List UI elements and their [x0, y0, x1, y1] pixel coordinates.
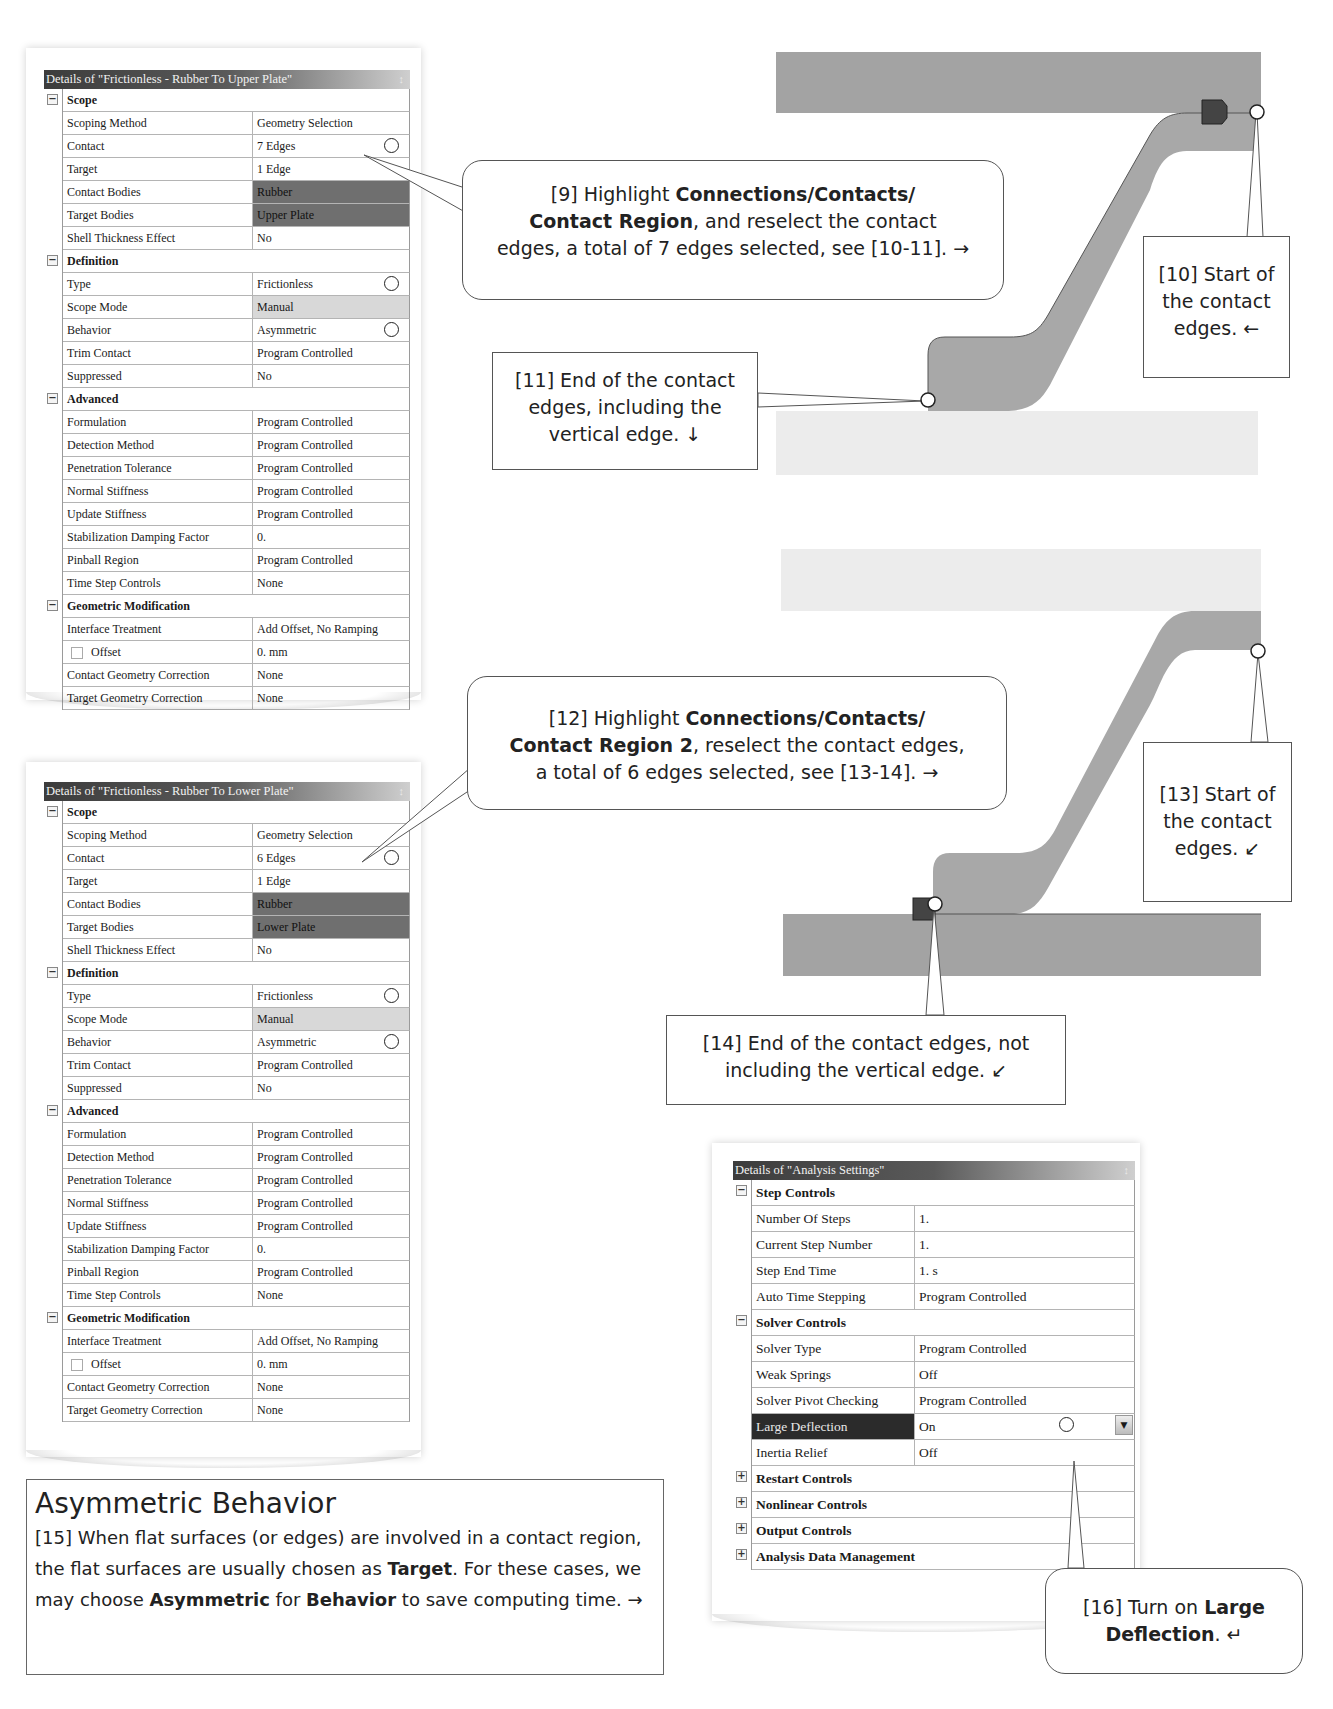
property-value[interactable]: 1 Edge: [253, 158, 409, 180]
expand-icon[interactable]: +: [736, 1497, 747, 1508]
group-header[interactable]: −Definition: [63, 250, 410, 273]
property-value[interactable]: Program Controlled: [253, 1123, 409, 1145]
property-row[interactable]: Inertia ReliefOff: [752, 1440, 1135, 1466]
property-value[interactable]: Program Controlled: [915, 1336, 1134, 1361]
property-value[interactable]: No: [253, 365, 409, 387]
property-value[interactable]: Program Controlled: [253, 1192, 409, 1214]
property-row[interactable]: Scoping MethodGeometry Selection: [63, 112, 410, 135]
collapse-icon[interactable]: −: [47, 967, 58, 978]
collapse-icon[interactable]: −: [736, 1185, 747, 1196]
group-header[interactable]: −Advanced: [63, 1100, 410, 1123]
property-value[interactable]: Program Controlled: [253, 411, 409, 433]
expand-icon[interactable]: +: [736, 1523, 747, 1534]
property-row[interactable]: Interface TreatmentAdd Offset, No Rampin…: [63, 1330, 410, 1353]
property-value[interactable]: None: [253, 1284, 409, 1306]
property-value[interactable]: Asymmetric: [253, 1031, 409, 1053]
property-value[interactable]: 6 Edges: [253, 847, 409, 869]
property-value[interactable]: 1. s: [915, 1258, 1134, 1283]
property-value[interactable]: Geometry Selection: [253, 824, 409, 846]
property-value[interactable]: None: [253, 1399, 409, 1421]
property-row[interactable]: Trim ContactProgram Controlled: [63, 1054, 410, 1077]
group-header[interactable]: −Scope: [63, 801, 410, 824]
property-row[interactable]: Normal StiffnessProgram Controlled: [63, 1192, 410, 1215]
property-row[interactable]: Solver TypeProgram Controlled: [752, 1336, 1135, 1362]
property-row[interactable]: Scope ModeManual: [63, 296, 410, 319]
property-value[interactable]: Add Offset, No Ramping: [253, 618, 409, 640]
property-row[interactable]: Penetration ToleranceProgram Controlled: [63, 1169, 410, 1192]
offset-checkbox[interactable]: [71, 647, 83, 659]
property-value[interactable]: Add Offset, No Ramping: [253, 1330, 409, 1352]
property-row[interactable]: SuppressedNo: [63, 1077, 410, 1100]
group-header[interactable]: +Restart Controls: [752, 1466, 1135, 1492]
property-row[interactable]: Current Step Number1.: [752, 1232, 1135, 1258]
property-value[interactable]: No: [253, 227, 409, 249]
property-value[interactable]: Off: [915, 1362, 1134, 1387]
property-value[interactable]: 0.: [253, 1238, 409, 1260]
collapse-icon[interactable]: −: [47, 806, 58, 817]
property-row[interactable]: Stabilization Damping Factor0.: [63, 1238, 410, 1261]
collapse-icon[interactable]: −: [47, 600, 58, 611]
property-row[interactable]: Update StiffnessProgram Controlled: [63, 503, 410, 526]
property-row[interactable]: Interface TreatmentAdd Offset, No Rampin…: [63, 618, 410, 641]
property-row[interactable]: Detection MethodProgram Controlled: [63, 434, 410, 457]
property-value[interactable]: None: [253, 1376, 409, 1398]
pin-icon[interactable]: ↕: [399, 782, 405, 801]
property-value[interactable]: 7 Edges: [253, 135, 409, 157]
property-row[interactable]: Scoping MethodGeometry Selection: [63, 824, 410, 847]
property-row[interactable]: Time Step ControlsNone: [63, 1284, 410, 1307]
group-header[interactable]: −Solver Controls: [752, 1310, 1135, 1336]
collapse-icon[interactable]: −: [47, 1105, 58, 1116]
property-value[interactable]: Program Controlled: [253, 342, 409, 364]
property-value[interactable]: 0. mm: [253, 1353, 409, 1375]
property-value[interactable]: Frictionless: [253, 273, 409, 295]
pin-icon[interactable]: ↕: [399, 70, 405, 89]
property-row[interactable]: Target Geometry CorrectionNone: [63, 1399, 410, 1422]
property-value[interactable]: Program Controlled: [253, 1146, 409, 1168]
property-value[interactable]: Program Controlled: [253, 1215, 409, 1237]
property-row[interactable]: Contact Geometry CorrectionNone: [63, 1376, 410, 1399]
property-row[interactable]: Trim ContactProgram Controlled: [63, 342, 410, 365]
property-value[interactable]: Rubber: [253, 893, 409, 915]
property-row[interactable]: FormulationProgram Controlled: [63, 411, 410, 434]
property-row[interactable]: SuppressedNo: [63, 365, 410, 388]
property-value[interactable]: Off: [915, 1440, 1134, 1465]
property-value[interactable]: Manual: [253, 296, 409, 318]
property-value[interactable]: None: [253, 572, 409, 594]
group-header[interactable]: +Output Controls: [752, 1518, 1135, 1544]
property-row[interactable]: Detection MethodProgram Controlled: [63, 1146, 410, 1169]
property-row[interactable]: Update StiffnessProgram Controlled: [63, 1215, 410, 1238]
property-row[interactable]: Weak SpringsOff: [752, 1362, 1135, 1388]
property-row[interactable]: Contact BodiesRubber: [63, 181, 410, 204]
group-header[interactable]: −Scope: [63, 89, 410, 112]
expand-icon[interactable]: +: [736, 1549, 747, 1560]
property-row[interactable]: Offset0. mm: [63, 641, 410, 664]
property-value[interactable]: Program Controlled: [915, 1388, 1134, 1413]
property-row[interactable]: BehaviorAsymmetric: [63, 319, 410, 342]
collapse-icon[interactable]: −: [47, 1312, 58, 1323]
property-row[interactable]: Contact7 Edges: [63, 135, 410, 158]
property-value[interactable]: 1 Edge: [253, 870, 409, 892]
property-row[interactable]: Target1 Edge: [63, 158, 410, 181]
property-row[interactable]: Stabilization Damping Factor0.: [63, 526, 410, 549]
property-value[interactable]: On▼: [915, 1414, 1134, 1439]
property-row[interactable]: Scope ModeManual: [63, 1008, 410, 1031]
property-value[interactable]: Program Controlled: [253, 480, 409, 502]
property-row[interactable]: Step End Time1. s: [752, 1258, 1135, 1284]
pin-icon[interactable]: ↕: [1124, 1161, 1130, 1180]
property-value[interactable]: Program Controlled: [253, 434, 409, 456]
property-row[interactable]: Shell Thickness EffectNo: [63, 939, 410, 962]
property-value[interactable]: Rubber: [253, 181, 409, 203]
property-value[interactable]: Asymmetric: [253, 319, 409, 341]
property-row[interactable]: Large DeflectionOn▼: [752, 1414, 1135, 1440]
property-value[interactable]: Program Controlled: [253, 1054, 409, 1076]
group-header[interactable]: −Definition: [63, 962, 410, 985]
property-row[interactable]: Contact Geometry CorrectionNone: [63, 664, 410, 687]
property-value[interactable]: Program Controlled: [253, 457, 409, 479]
property-row[interactable]: Pinball RegionProgram Controlled: [63, 549, 410, 572]
property-value[interactable]: Manual: [253, 1008, 409, 1030]
property-value[interactable]: Lower Plate: [253, 916, 409, 938]
collapse-icon[interactable]: −: [47, 393, 58, 404]
collapse-icon[interactable]: −: [47, 255, 58, 266]
property-value[interactable]: Program Controlled: [915, 1284, 1134, 1309]
property-row[interactable]: Offset0. mm: [63, 1353, 410, 1376]
